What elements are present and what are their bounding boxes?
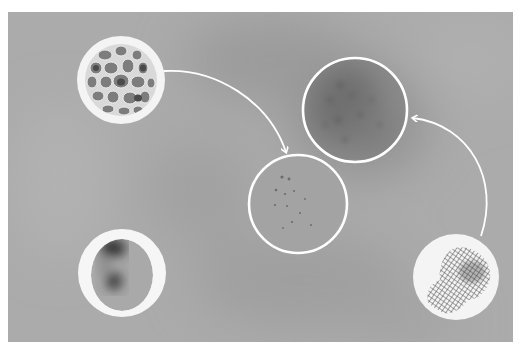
dense-region-circle	[303, 58, 407, 162]
figure-canvas	[0, 0, 530, 351]
foam-inset	[77, 36, 165, 124]
sparse-dots-circle	[249, 155, 347, 253]
micrograph-figure	[0, 0, 530, 351]
blob-inset	[78, 229, 166, 317]
mesh-inset	[413, 234, 499, 320]
